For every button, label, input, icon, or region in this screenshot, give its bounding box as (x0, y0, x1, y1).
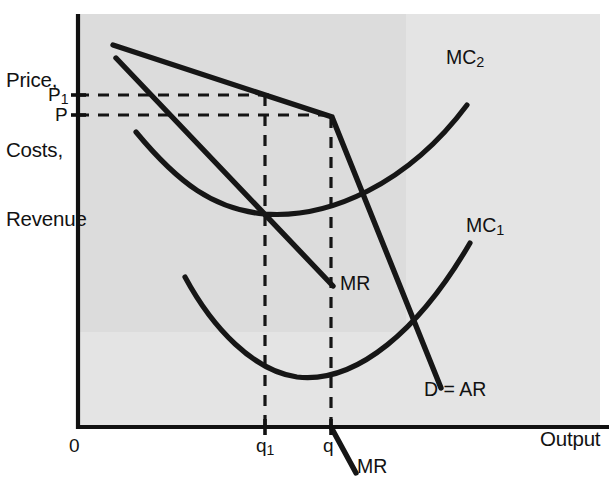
y-axis-title-line-2: Costs, (6, 138, 87, 161)
y-tick-label-p-text: P (55, 104, 68, 125)
mc2-label: MC2 (446, 46, 484, 70)
y-tick-label-p1-text: P (48, 84, 61, 105)
y-tick-label-p: P (55, 104, 68, 125)
mr-interior-label: MR (340, 272, 370, 294)
mc1-label-sub: 1 (496, 222, 504, 238)
y-axis-title: Price, Costs, Revenue (6, 22, 87, 277)
mr-lower-label: MR (357, 455, 387, 477)
mr-lower-segment (331, 427, 356, 473)
y-axis-title-line-3: Revenue (6, 207, 87, 230)
x-tick-label-q1-text: q (256, 435, 267, 456)
x-tick-label-q-text: q (323, 435, 334, 456)
y-axis-title-line-1: Price, (6, 68, 87, 91)
x-axis-title: Output (540, 427, 600, 450)
kinked-demand-diagram (0, 0, 613, 486)
demand-ar-label: D = AR (424, 378, 486, 400)
plot-background-lower-band (78, 332, 600, 427)
origin-label: 0 (69, 435, 80, 456)
x-tick-label-q1-sub: 1 (267, 442, 275, 458)
x-tick-label-q1: q1 (256, 435, 274, 458)
mc1-label: MC1 (466, 214, 504, 238)
figure-container: Price, Costs, Revenue P1 P 0 q1 q Output… (0, 0, 613, 486)
mc2-label-text: MC (446, 46, 476, 68)
mc1-label-text: MC (466, 214, 496, 236)
mc2-label-sub: 2 (476, 54, 484, 70)
x-tick-label-q: q (323, 435, 334, 456)
